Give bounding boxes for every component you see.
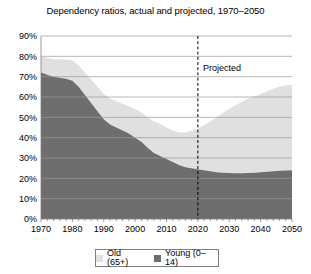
legend-swatch-young	[154, 255, 161, 262]
x-axis-tick-label: 2010	[156, 224, 176, 234]
legend-label-young: Young (0–14)	[165, 249, 218, 267]
legend-label-old: Old (65+)	[107, 249, 144, 267]
legend-item-young: Young (0–14)	[154, 249, 218, 267]
y-axis-tick-label: 20%	[19, 174, 37, 184]
x-axis-tick-label: 2030	[219, 224, 239, 234]
y-axis-tick-label: 50%	[19, 113, 37, 123]
chart-title: Dependency ratios, actual and projected,…	[0, 5, 311, 16]
x-axis-tick-label: 1970	[31, 224, 51, 234]
y-axis-tick-label: 10%	[19, 194, 37, 204]
legend-item-old: Old (65+)	[96, 249, 144, 267]
y-axis-tick-label: 70%	[19, 72, 37, 82]
y-axis-tick-label: 80%	[19, 52, 37, 62]
x-axis-tick-label: 2000	[125, 224, 145, 234]
chart-plot-area: 0%10%20%30%40%50%60%70%80%90%19701980199…	[0, 0, 311, 245]
legend-swatch-old	[96, 255, 103, 262]
x-axis-tick-label: 2050	[282, 224, 302, 234]
x-axis-tick-label: 2020	[188, 224, 208, 234]
projected-label: Projected	[203, 63, 241, 73]
y-axis-tick-label: 0%	[24, 214, 37, 224]
y-axis-tick-label: 30%	[19, 153, 37, 163]
x-axis-tick-label: 2040	[251, 224, 271, 234]
y-axis-tick-label: 90%	[19, 31, 37, 41]
dependency-ratios-chart: Dependency ratios, actual and projected,…	[0, 0, 311, 274]
x-axis-tick-label: 1980	[62, 224, 82, 234]
x-axis-tick-label: 1990	[94, 224, 114, 234]
y-axis-tick-label: 60%	[19, 92, 37, 102]
y-axis-tick-label: 40%	[19, 133, 37, 143]
chart-legend: Old (65+) Young (0–14)	[95, 249, 219, 267]
